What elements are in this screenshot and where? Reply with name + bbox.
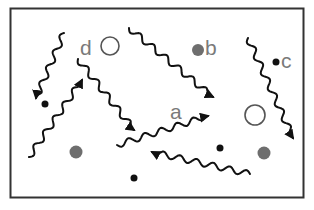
hollow-particle-d-icon bbox=[101, 37, 119, 55]
photon-7-wavy-arrow bbox=[152, 152, 250, 175]
black-particle-icon bbox=[131, 175, 138, 182]
photon-2-wavy-arrow bbox=[29, 80, 82, 157]
black-particle-icon bbox=[217, 145, 224, 152]
photon-group bbox=[29, 28, 293, 174]
photon-3-wavy-arrow bbox=[78, 59, 134, 130]
gray-particle-icon bbox=[258, 147, 271, 160]
label-d: d bbox=[80, 36, 92, 59]
label-b: b bbox=[205, 36, 217, 59]
diagram-frame bbox=[11, 9, 304, 198]
photon-1-wavy-arrow bbox=[36, 33, 64, 98]
photon-particle-diagram: abcd bbox=[0, 0, 314, 210]
hollow-particle-icon bbox=[245, 105, 265, 125]
label-c: c bbox=[281, 49, 292, 72]
gray-particle-b-icon bbox=[192, 44, 204, 56]
black-particle-c-icon bbox=[273, 59, 280, 66]
gray-particle-icon bbox=[70, 146, 83, 159]
photon-4-wavy-arrow bbox=[129, 28, 213, 97]
label-a: a bbox=[170, 100, 182, 123]
black-particle-icon bbox=[42, 101, 49, 108]
